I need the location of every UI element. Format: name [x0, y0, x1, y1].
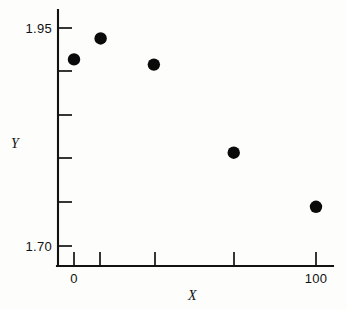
- x-axis-label-zero: 0: [60, 272, 88, 285]
- x-axis-label-hundred: 100: [300, 272, 332, 285]
- plot-canvas: [0, 0, 347, 310]
- y-axis-label-upper: 1.95: [16, 22, 52, 35]
- data-point: [310, 201, 322, 213]
- data-point-series: [68, 32, 322, 213]
- scatter-plot-figure: 1.95 1.70 0 100 Y X: [0, 0, 347, 310]
- data-point: [228, 147, 240, 159]
- data-point: [94, 32, 106, 44]
- data-point: [68, 53, 80, 65]
- data-point: [148, 58, 160, 70]
- y-axis-title: Y: [11, 137, 19, 151]
- y-axis-label-lower: 1.70: [16, 240, 52, 253]
- x-axis-ticks: [74, 252, 316, 266]
- x-axis-title: X: [188, 289, 197, 303]
